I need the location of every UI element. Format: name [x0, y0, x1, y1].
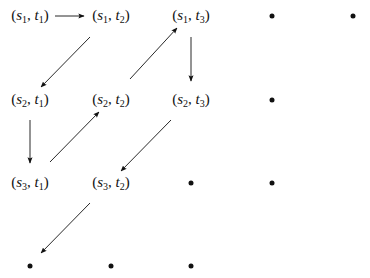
dot-row1-col5	[351, 14, 356, 19]
dot-row4-col1	[28, 264, 33, 269]
dot-row1-col4	[270, 14, 275, 19]
arrow-s1t2-to-s2t1	[41, 37, 90, 87]
arrow-s3t1-to-s2t2	[50, 112, 99, 162]
node-s2-t1: (s2, t1)	[11, 92, 49, 109]
arrow-s2t3-to-s3t2	[121, 120, 171, 171]
dot-row3-col3	[189, 181, 194, 186]
node-s3-t2: (s3, t2)	[92, 175, 130, 192]
dot-row2-col4	[270, 98, 275, 103]
dot-row3-col4	[270, 181, 275, 186]
node-s3-t1: (s3, t1)	[11, 175, 49, 192]
node-s2-t3: (s2, t3)	[172, 92, 210, 109]
node-s1-t2: (s1, t2)	[92, 8, 130, 25]
node-s2-t2: (s2, t2)	[92, 92, 130, 109]
arrow-s3t2-to-dot	[41, 203, 90, 253]
enumeration-diagram: (s1, t1) (s1, t2) (s1, t3) (s2, t1) (s2,…	[0, 0, 370, 278]
node-s1-t3: (s1, t3)	[172, 8, 210, 25]
node-s1-t1: (s1, t1)	[11, 8, 49, 25]
arrows-layer	[0, 0, 370, 278]
dot-row4-col2	[109, 264, 114, 269]
arrow-s2t2-to-s1t3	[130, 28, 177, 79]
dot-row4-col3	[189, 264, 194, 269]
